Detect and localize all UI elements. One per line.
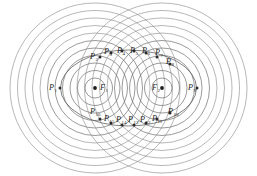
focus-marker-f2 [160, 86, 164, 90]
point-marker-p16 [99, 118, 102, 121]
focus-marker-f1 [93, 86, 97, 90]
point-label-p15: P15 [103, 114, 115, 124]
point-label-p3: P3 [103, 47, 112, 57]
point-label-p11: P11 [151, 114, 163, 124]
point-marker-p9 [196, 87, 199, 90]
point-label-p8: P8 [165, 57, 174, 67]
point-label-p14: P14 [115, 115, 127, 125]
point-label-p9: P9 [187, 83, 196, 93]
focus-label-f2: F2 [151, 83, 160, 93]
point-marker-p2 [99, 56, 102, 59]
point-label-p16: P16 [89, 107, 101, 117]
point-label-p13: P13 [127, 115, 139, 125]
point-label-p2: P2 [89, 52, 98, 62]
point-label-p10: P10 [167, 107, 179, 117]
point-label-p12: P12 [139, 115, 151, 125]
figure-canvas: P1P2P3P4P5P6P7P8P9P10P11P12P13P14P15P16F… [0, 0, 257, 176]
point-marker-p1 [59, 87, 62, 90]
ellipse-construction-figure: P1P2P3P4P5P6P7P8P9P10P11P12P13P14P15P16F… [0, 0, 257, 176]
point-label-p6: P6 [141, 46, 150, 56]
point-label-p1: P1 [48, 83, 57, 93]
point-label-p4: P4 [116, 46, 125, 56]
